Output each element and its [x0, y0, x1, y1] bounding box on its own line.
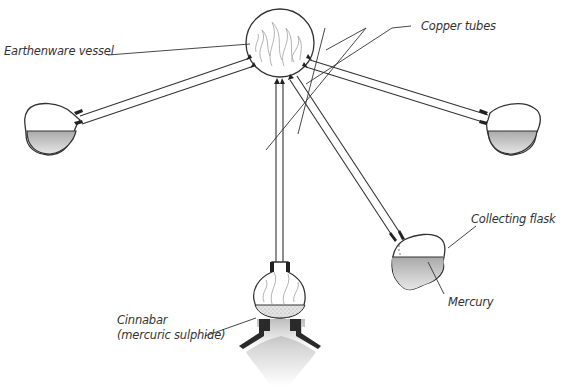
label-mercuric-sulphide: (mercuric sulphide) — [117, 328, 225, 343]
furnace — [239, 319, 322, 386]
collecting-flask — [389, 230, 445, 290]
label-cinnabar: Cinnabar — [117, 313, 167, 328]
right-flask — [479, 104, 540, 155]
copper-tubes — [80, 58, 488, 262]
cinnabar-flask — [254, 262, 305, 318]
label-mercury: Mercury — [448, 295, 493, 310]
label-collecting-flask: Collecting flask — [471, 212, 556, 227]
label-earthenware-vessel: Earthenware vessel — [4, 44, 114, 59]
earthenware-vessel — [246, 9, 314, 84]
label-copper-tubes: Copper tubes — [421, 19, 496, 34]
left-flask — [25, 104, 83, 155]
